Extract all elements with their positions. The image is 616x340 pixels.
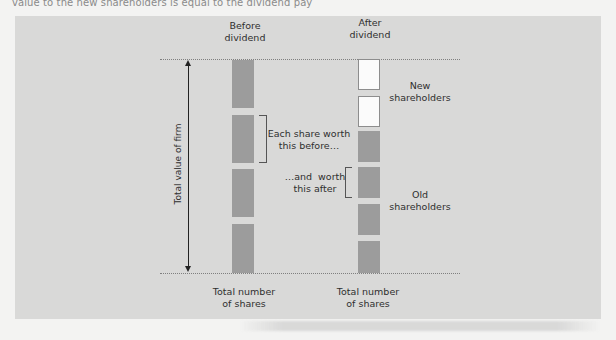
- reverse-page-bleed: [240, 321, 600, 331]
- before-total-shares-line1: Total number: [210, 286, 278, 298]
- before-annotation-line2: this before…: [264, 140, 354, 152]
- arrow-down-icon: [185, 266, 191, 272]
- before-annotation: Each share worth this before…: [264, 128, 354, 152]
- bottom-baseline: [160, 273, 460, 274]
- new-shareholders-line2: shareholders: [382, 92, 458, 104]
- total-value-label: Total value of firm: [173, 114, 183, 214]
- old-shareholders-line1: Old: [382, 189, 458, 201]
- after-annotation-line1: …and worth: [284, 171, 346, 183]
- after-title-line2: dividend: [340, 29, 400, 41]
- arrow-up-icon: [185, 60, 191, 66]
- before-share-bar-4: [232, 224, 254, 273]
- before-title-line2: dividend: [215, 32, 275, 44]
- after-title-line1: After: [340, 17, 400, 29]
- before-annotation-line1: Each share worth: [264, 128, 354, 140]
- before-share-bar-1: [232, 60, 254, 108]
- top-value-line: [160, 59, 460, 60]
- after-new-share-bar-1: [358, 59, 380, 90]
- before-share-bar-2: [232, 115, 254, 163]
- after-total-shares-label: Total number of shares: [334, 286, 402, 310]
- after-new-share-bar-2: [358, 96, 380, 127]
- after-old-share-bar-1: [358, 131, 380, 162]
- old-shareholders-line2: shareholders: [382, 201, 458, 213]
- after-annotation-line2: this after: [284, 183, 346, 195]
- total-value-arrow: [188, 64, 189, 268]
- after-share-bracket: [345, 167, 352, 198]
- after-annotation: …and worth this after: [284, 171, 346, 195]
- old-shareholders-label: Old shareholders: [382, 189, 458, 213]
- after-old-share-bar-4: [358, 241, 380, 273]
- before-total-shares-label: Total number of shares: [210, 286, 278, 310]
- after-dividend-title: After dividend: [340, 17, 400, 41]
- new-shareholders-label: New shareholders: [382, 80, 458, 104]
- after-old-share-bar-3: [358, 204, 380, 235]
- page-caption-fragment: value to the new shareholders is equal t…: [12, 0, 312, 8]
- new-shareholders-line1: New: [382, 80, 458, 92]
- before-dividend-title: Before dividend: [215, 20, 275, 44]
- before-share-bar-3: [232, 169, 254, 217]
- after-old-share-bar-2: [358, 167, 380, 198]
- before-title-line1: Before: [215, 20, 275, 32]
- after-total-shares-line2: of shares: [334, 298, 402, 310]
- before-total-shares-line2: of shares: [210, 298, 278, 310]
- after-total-shares-line1: Total number: [334, 286, 402, 298]
